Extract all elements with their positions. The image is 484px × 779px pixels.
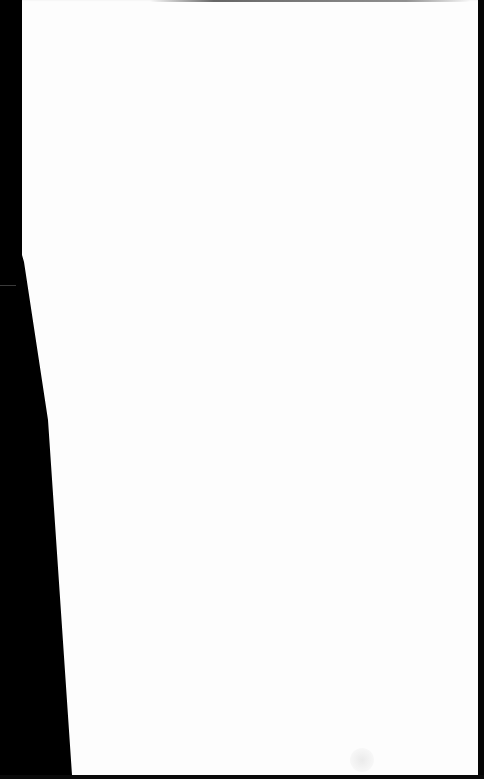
paper-smudge (350, 748, 374, 772)
photo-scene (0, 0, 484, 779)
background-bottom-edge (0, 775, 484, 779)
background-stray-line (0, 285, 16, 286)
paper-top-shadow (150, 0, 470, 2)
background-right-edge (478, 0, 484, 779)
blank-paper-sheet (0, 0, 484, 779)
